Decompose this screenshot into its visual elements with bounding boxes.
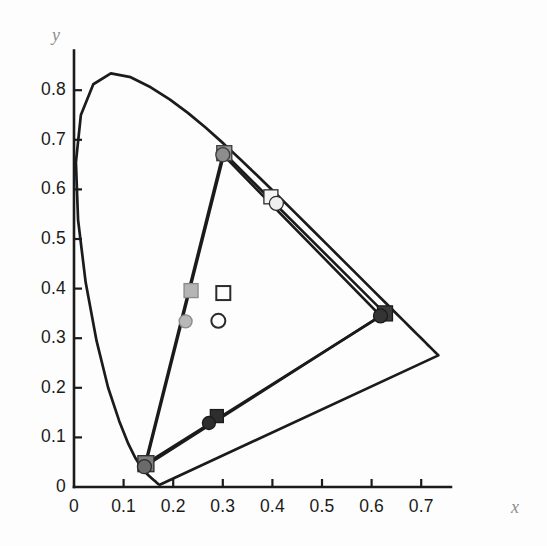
spectral-locus-layer	[76, 73, 438, 484]
y-axis-tick-label: 0.5	[8, 228, 66, 249]
mid-line-square-light	[184, 284, 198, 298]
white-point-circle-open	[211, 314, 225, 328]
y-axis-tick-label: 0	[8, 476, 66, 497]
blue-vertex-circle	[137, 460, 151, 474]
white-point-circle-upper	[269, 196, 283, 210]
y-axis-tick-label: 0.1	[8, 426, 66, 447]
mid-line-circle-dark	[202, 417, 215, 430]
y-axis-tick-label: 0.8	[8, 79, 66, 100]
tick-layer	[74, 90, 421, 487]
spectral-locus-curve	[76, 73, 438, 484]
axis-layer	[74, 51, 451, 487]
y-axis-tick-label: 0.7	[8, 129, 66, 150]
x-axis-title: x	[511, 497, 519, 518]
x-axis-tick-label: 0.7	[391, 496, 451, 517]
marker-layer	[137, 146, 392, 474]
gamut-circles	[144, 155, 380, 467]
plot-canvas	[0, 0, 547, 546]
green-vertex-circle	[216, 148, 230, 162]
chromaticity-diagram-figure: 00.10.20.30.40.50.60.70.800.10.20.30.40.…	[0, 0, 547, 546]
y-axis-tick-label: 0.4	[8, 278, 66, 299]
mid-line-circle-light	[179, 315, 192, 328]
white-point-square-open	[216, 286, 230, 300]
y-axis-tick-label: 0.2	[8, 377, 66, 398]
y-axis-tick-label: 0.3	[8, 327, 66, 348]
y-axis-title: y	[52, 25, 60, 46]
y-axis-tick-label: 0.6	[8, 178, 66, 199]
red-vertex-circle	[374, 309, 388, 323]
